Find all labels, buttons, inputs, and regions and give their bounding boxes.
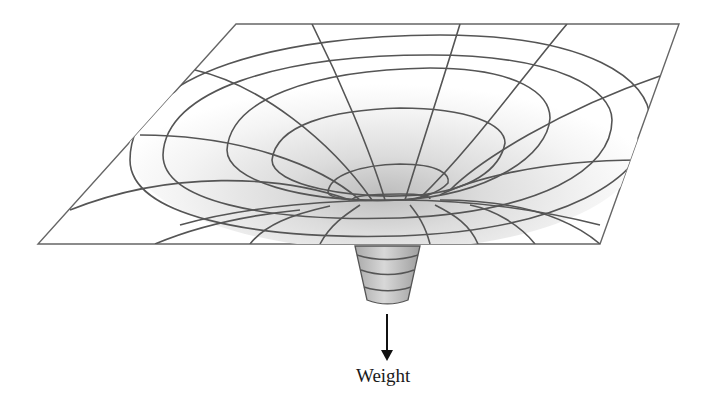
weight-label: Weight [356,365,410,387]
grid-sheet [38,24,679,250]
down-arrow-icon [381,314,393,361]
weight-cone [355,246,420,304]
spacetime-diagram [0,0,713,408]
